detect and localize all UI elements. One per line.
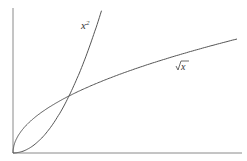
sqrt-x-curve [13, 39, 237, 153]
chart: x2 x [0, 0, 247, 161]
svg-text:x: x [180, 61, 186, 72]
x-squared-curve [13, 11, 102, 153]
sqrt-x-label: x [176, 61, 189, 72]
x-squared-label: x2 [80, 19, 90, 31]
